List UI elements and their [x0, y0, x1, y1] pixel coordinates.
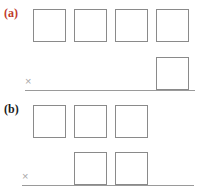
panel-a-upper-block-2: [74, 9, 107, 42]
panel-a-upper-block-3: [115, 9, 148, 42]
panel-b-upper-block-2: [74, 105, 107, 138]
panel-b-upper-block-1: [33, 105, 66, 138]
panel-a-baseline: [25, 90, 195, 91]
panel-a-upper-block-1: [33, 9, 66, 42]
panel-b-lower-block-1: [74, 152, 107, 185]
panel-b-label: (b): [4, 103, 19, 115]
figure-canvas: (a) × (b) ×: [0, 0, 198, 193]
panel-b-baseline: [22, 185, 194, 186]
panel-b-origin-mark: ×: [22, 171, 28, 182]
panel-a-upper-block-4: [156, 9, 189, 42]
panel-a-lower-block-1: [156, 57, 189, 90]
panel-b-lower-block-2: [115, 152, 148, 185]
panel-a-label: (a): [4, 7, 18, 19]
panel-b-upper-block-3: [115, 105, 148, 138]
panel-a-origin-mark: ×: [25, 76, 31, 87]
